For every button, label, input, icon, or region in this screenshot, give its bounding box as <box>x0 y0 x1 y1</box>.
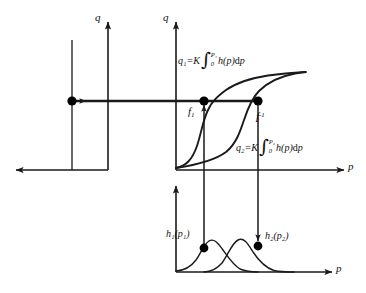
q2-differential-var: p <box>298 142 303 153</box>
q2-formula: q₂=K ∫ P₂ 0 h(p) d p <box>236 139 303 155</box>
diagram-svg <box>0 0 366 293</box>
f1-label: f1 <box>188 105 194 118</box>
bottom-panel-group <box>176 186 332 272</box>
bottom-p-axis-label: p <box>336 262 342 274</box>
h2-dot <box>254 242 263 251</box>
h1-label: h₁(p₁) <box>166 228 190 239</box>
q2-formula-lhs: q₂=K <box>236 142 258 153</box>
f2-inverse-label: f-12 <box>256 110 259 123</box>
q1-integrand: h(p) <box>218 55 235 66</box>
left-q-axis-label: q <box>95 11 101 23</box>
integral-icon: ∫ <box>259 140 269 154</box>
left-panel-group <box>16 22 258 170</box>
h1-dot <box>200 244 209 253</box>
f1-label-sub: 1 <box>191 111 194 118</box>
g-equality-dot <box>67 96 76 105</box>
q2-upper-limit: P₂ <box>269 139 275 146</box>
q2-integral-limits: P₂ 0 <box>269 139 275 155</box>
f1-dot <box>199 96 208 105</box>
q1-integral-sign-group: ∫ P₁ 0 <box>201 52 217 68</box>
q1-integral-limits: P₁ 0 <box>211 52 217 68</box>
f2-label-sup: -1 <box>259 111 265 118</box>
f2-label-sub: 2 <box>256 116 259 123</box>
q2-lower-limit: 0 <box>269 148 275 155</box>
connector-group <box>204 104 258 248</box>
q1-upper-limit: P₁ <box>211 52 217 59</box>
h2-label: h₂(p₂) <box>265 230 289 241</box>
main-p-axis-label: p <box>348 160 354 172</box>
q1-formula: q₁=K ∫ P₁ 0 h(p) d p <box>178 52 245 68</box>
q1-differential-var: p <box>240 55 245 66</box>
integral-icon: ∫ <box>201 53 211 67</box>
q1-formula-lhs: q₁=K <box>178 55 200 66</box>
q2-integrand: h(p) <box>276 142 293 153</box>
q1-lower-limit: 0 <box>211 61 217 68</box>
q2-integral-sign-group: ∫ P₂ 0 <box>259 139 275 155</box>
figure-canvas: g₁(q₁)=g₂(q₂) q q p p q₁=K ∫ P₁ 0 h(p) d… <box>0 0 366 293</box>
main-q-axis-label: q <box>163 11 169 23</box>
h2-density-curve <box>204 239 294 272</box>
